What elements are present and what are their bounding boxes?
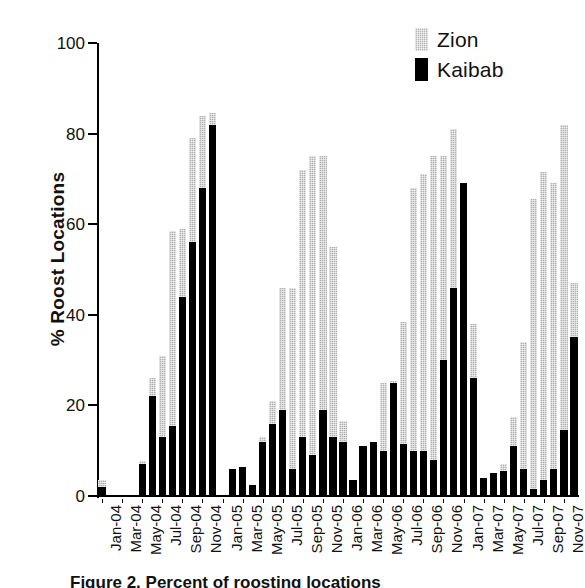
bar-segment-kaibab [390, 383, 397, 496]
bar-segment-zion [560, 125, 567, 431]
bar-segment-kaibab [309, 455, 316, 496]
x-tick-mark [162, 499, 163, 503]
bar-segment-kaibab [319, 410, 326, 496]
bar-segment-zion [510, 417, 517, 446]
x-tick-mark [303, 499, 304, 503]
bar-segment-kaibab [149, 396, 156, 496]
x-tick-label: Mar-04 [128, 505, 143, 553]
bar-stack [500, 43, 507, 496]
y-tick-mark [88, 495, 97, 497]
bar-segment-zion [309, 156, 316, 455]
bar-stack [169, 43, 176, 496]
bar-stack [550, 43, 557, 496]
bar-segment-kaibab [279, 410, 286, 496]
x-tick-label: Sep-05 [309, 505, 324, 553]
y-tick-mark [88, 133, 97, 135]
bar-segment-zion [420, 174, 427, 450]
x-tick-mark [363, 499, 364, 503]
bar-segment-kaibab [550, 469, 557, 496]
bar-segment-kaibab [380, 451, 387, 496]
x-tick-mark [383, 499, 384, 503]
bar-segment-zion [329, 247, 336, 437]
x-tick-label: May-04 [148, 505, 163, 555]
bar-segment-kaibab [410, 451, 417, 496]
bar-stack [189, 43, 196, 496]
bar-stack [359, 43, 366, 496]
bar-segment-zion [380, 383, 387, 451]
bar-stack [490, 43, 497, 496]
bar-stack [410, 43, 417, 496]
y-tick-label: 0 [31, 488, 85, 505]
bar-segment-zion [400, 322, 407, 444]
bar-segment-zion [169, 231, 176, 426]
bar-segment-kaibab [500, 471, 507, 496]
bar-segment-zion [189, 138, 196, 242]
bar-segment-kaibab [510, 446, 517, 496]
bar-stack [149, 43, 156, 496]
bar-stack [560, 43, 567, 496]
y-tick-label: 40 [31, 307, 85, 324]
bar-stack [480, 43, 487, 496]
bar-stack [370, 43, 377, 496]
bar-segment-kaibab [259, 442, 266, 496]
bar-segment-kaibab [430, 460, 437, 496]
x-tick-mark [263, 499, 264, 503]
x-tick-label: Nov-06 [449, 505, 464, 553]
bar-stack [570, 43, 577, 496]
x-tick-label: Nov-05 [329, 505, 344, 553]
x-tick-mark [182, 499, 183, 503]
bar-stack [390, 43, 397, 496]
bar-segment-kaibab [159, 437, 166, 496]
bar-segment-zion [319, 156, 326, 410]
bar-segment-kaibab [239, 467, 246, 496]
x-tick-label: Jan-05 [229, 505, 244, 551]
bar-segment-kaibab [400, 444, 407, 496]
x-tick-label: May-06 [389, 505, 404, 555]
y-tick-mark [88, 314, 97, 316]
x-tick-label: May-07 [510, 505, 525, 555]
bar-stack [229, 43, 236, 496]
bar-segment-zion [179, 229, 186, 297]
bar-stack [289, 43, 296, 496]
x-tick-label: May-05 [269, 505, 284, 555]
bar-segment-zion [159, 356, 166, 438]
bar-segment-kaibab [189, 242, 196, 496]
bar-stack [440, 43, 447, 496]
bar-stack [159, 43, 166, 496]
bar-stack [530, 43, 537, 496]
y-tick-mark [88, 42, 97, 44]
x-tick-label: Jul-05 [289, 505, 304, 546]
bar-stack [98, 43, 105, 496]
bar-stack [299, 43, 306, 496]
bar-stack [430, 43, 437, 496]
bar-stack [510, 43, 517, 496]
bar-segment-zion [520, 342, 527, 469]
bar-segment-kaibab [329, 437, 336, 496]
bar-segment-zion [450, 129, 457, 288]
bar-segment-kaibab [480, 478, 487, 496]
bar-stack [450, 43, 457, 496]
x-tick-mark [323, 499, 324, 503]
bar-stack [269, 43, 276, 496]
plot-area: 020406080100 [97, 43, 579, 496]
x-tick-mark [102, 499, 103, 503]
x-tick-mark [544, 499, 545, 503]
bar-stack [259, 43, 266, 496]
bar-segment-kaibab [249, 485, 256, 496]
bar-segment-zion [470, 324, 477, 378]
bar-stack [319, 43, 326, 496]
bar-segment-zion [410, 188, 417, 451]
bar-segment-zion [279, 288, 286, 410]
bar-segment-zion [209, 113, 216, 124]
bar-stack [199, 43, 206, 496]
bar-segment-kaibab [349, 480, 356, 496]
y-tick-label: 80 [31, 126, 85, 143]
bar-segment-zion [530, 199, 537, 489]
bar-segment-zion [149, 378, 156, 396]
y-tick-mark [88, 404, 97, 406]
bar-stack [329, 43, 336, 496]
x-tick-mark [423, 499, 424, 503]
bar-segment-kaibab [420, 451, 427, 496]
bar-segment-kaibab [299, 437, 306, 496]
x-tick-mark [243, 499, 244, 503]
